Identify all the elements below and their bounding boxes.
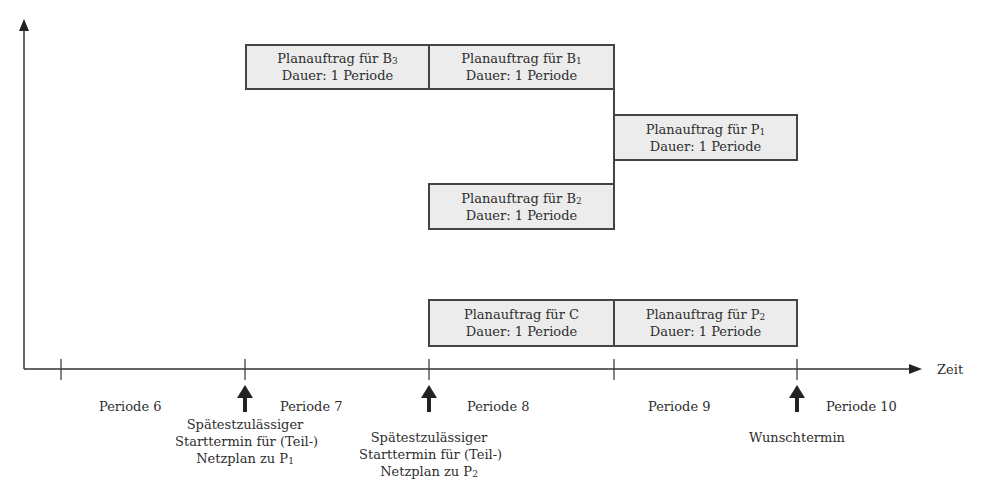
x-axis-arrow-icon [909,364,922,374]
marker-annotation-p1: Spätestzulässiger Starttermin für (Teil-… [175,416,315,467]
period-label-7: Periode 7 [280,398,342,415]
order-title: Planauftrag für B2 [461,190,581,207]
up-arrow-icon-1 [237,385,253,412]
order-title: Planauftrag für P2 [646,306,766,323]
up-arrow-icon-3 [789,385,805,412]
order-title: Planauftrag für C [464,306,579,323]
period-label-10: Periode 10 [826,398,897,415]
timeline-diagram: Planauftrag für B3 Dauer: 1 Periode Plan… [0,0,989,499]
period-label-8: Periode 8 [467,398,529,415]
order-duration: Dauer: 1 Periode [466,323,577,340]
order-title: Planauftrag für P1 [646,121,766,138]
order-duration: Dauer: 1 Periode [466,67,577,84]
period-label-9: Periode 9 [648,398,710,415]
order-duration: Dauer: 1 Periode [650,323,761,340]
up-arrow-icon-2 [421,385,437,412]
y-axis-arrow-icon [19,19,29,31]
order-box-c: Planauftrag für C Dauer: 1 Periode [428,299,615,347]
order-box-b2: Planauftrag für B2 Dauer: 1 Periode [428,183,615,230]
x-axis-label: Zeit [937,361,963,378]
marker-annotation-p2: Spätestzulässiger Starttermin für (Teil-… [359,429,499,480]
order-box-p2: Planauftrag für P2 Dauer: 1 Periode [613,299,798,347]
order-duration: Dauer: 1 Periode [282,67,393,84]
period-label-6: Periode 6 [99,398,161,415]
order-duration: Dauer: 1 Periode [466,207,577,224]
order-box-p1: Planauftrag für P1 Dauer: 1 Periode [613,114,798,161]
order-duration: Dauer: 1 Periode [650,138,761,155]
order-title: Planauftrag für B1 [461,50,581,67]
order-box-b1: Planauftrag für B1 Dauer: 1 Periode [428,44,615,90]
order-box-b3: Planauftrag für B3 Dauer: 1 Periode [245,44,430,90]
marker-annotation-wunschtermin: Wunschtermin [737,429,857,446]
order-title: Planauftrag für B3 [277,50,397,67]
